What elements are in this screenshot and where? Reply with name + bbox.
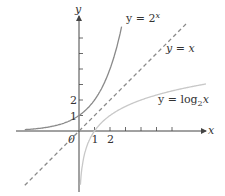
label-identity: y = x — [165, 42, 195, 55]
labels: yx01212y = 2xy = xy = log2x — [68, 3, 215, 146]
y-axis-label: y — [74, 3, 82, 16]
x-tick-label: 2 — [107, 133, 114, 146]
x-tick-label: 1 — [92, 133, 99, 146]
origin-label: 0 — [68, 133, 75, 146]
x-axis-label: x — [208, 124, 215, 137]
y-tick-label: 1 — [70, 110, 77, 123]
plot-area: yx01212y = 2xy = xy = log2x — [0, 0, 225, 196]
y-tick-label: 2 — [70, 94, 77, 107]
chart: yx01212y = 2xy = xy = log2x — [0, 0, 225, 196]
label-exp: y = 2x — [125, 11, 160, 25]
label-log: y = log2x — [157, 93, 210, 108]
